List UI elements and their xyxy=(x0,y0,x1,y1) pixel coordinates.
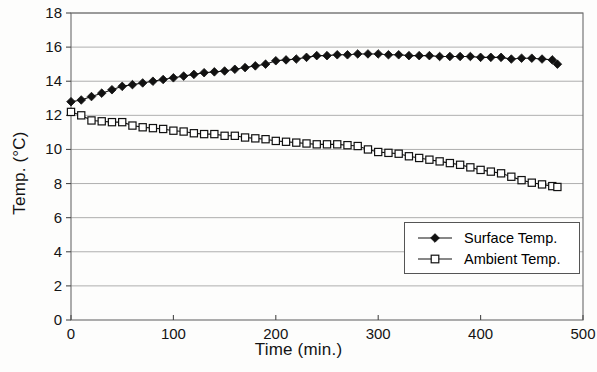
data-point xyxy=(554,183,561,190)
data-point xyxy=(160,125,167,132)
data-point xyxy=(446,52,455,61)
y-tick-label: 2 xyxy=(22,277,62,294)
series-line xyxy=(71,54,557,102)
data-point xyxy=(353,50,362,59)
data-point xyxy=(497,170,504,177)
data-point xyxy=(528,179,535,186)
data-point xyxy=(518,177,525,184)
data-point xyxy=(149,77,158,86)
data-point xyxy=(416,154,423,161)
series-1 xyxy=(67,50,562,106)
data-point xyxy=(538,181,545,188)
data-point xyxy=(241,63,250,72)
data-point xyxy=(466,52,475,61)
data-point xyxy=(282,138,289,145)
data-point xyxy=(477,166,484,173)
data-point xyxy=(476,53,485,62)
data-point xyxy=(200,68,209,77)
data-point xyxy=(211,130,218,137)
data-point xyxy=(67,108,74,115)
data-point xyxy=(88,117,95,124)
data-point xyxy=(159,75,168,84)
data-point xyxy=(426,156,433,163)
data-point xyxy=(507,55,516,64)
data-point xyxy=(221,132,228,139)
data-point xyxy=(497,53,506,62)
data-point xyxy=(333,50,342,59)
data-point xyxy=(78,112,85,119)
legend-label: Ambient Temp. xyxy=(464,251,560,267)
data-point xyxy=(170,127,177,134)
legend-box: Surface Temp.Ambient Temp. xyxy=(404,222,580,274)
y-tick-label: 18 xyxy=(22,4,62,21)
data-point xyxy=(190,130,197,137)
data-point xyxy=(139,124,146,131)
data-point xyxy=(528,54,537,63)
data-point xyxy=(364,146,371,153)
data-point xyxy=(385,149,392,156)
data-point xyxy=(487,168,494,175)
data-point xyxy=(67,97,76,106)
data-point xyxy=(272,56,281,65)
data-point xyxy=(405,153,412,160)
data-point xyxy=(374,50,383,59)
data-point xyxy=(97,89,106,98)
data-point xyxy=(313,141,320,148)
data-point xyxy=(169,74,178,83)
data-point xyxy=(179,72,188,81)
data-point xyxy=(293,139,300,146)
data-point xyxy=(538,55,547,64)
data-point xyxy=(118,82,127,91)
legend-label: Surface Temp. xyxy=(464,230,557,246)
data-point xyxy=(180,128,187,135)
data-point xyxy=(129,122,136,129)
chart-canvas xyxy=(0,0,597,372)
data-point xyxy=(108,119,115,126)
data-point xyxy=(210,68,219,77)
data-point xyxy=(487,53,496,62)
data-point xyxy=(128,80,137,89)
data-point xyxy=(384,50,393,59)
data-point xyxy=(87,92,96,101)
data-point xyxy=(220,67,229,76)
data-point xyxy=(364,50,373,59)
data-point xyxy=(323,141,330,148)
data-point xyxy=(261,60,270,69)
x-axis-title: Time (min.) xyxy=(0,340,597,360)
data-point xyxy=(394,50,403,59)
data-point xyxy=(436,158,443,165)
data-point xyxy=(344,142,351,149)
data-point xyxy=(138,79,147,88)
data-point xyxy=(241,134,248,141)
data-point xyxy=(467,164,474,171)
data-point xyxy=(446,159,453,166)
data-series-layer xyxy=(67,50,562,191)
data-point xyxy=(508,173,515,180)
y-tick-label: 14 xyxy=(22,72,62,89)
data-point xyxy=(98,118,105,125)
data-point xyxy=(303,140,310,147)
data-point xyxy=(272,137,279,144)
data-point xyxy=(425,51,434,60)
data-point xyxy=(201,130,208,137)
data-point xyxy=(343,50,352,59)
data-point xyxy=(354,142,361,149)
y-tick-label: 16 xyxy=(22,38,62,55)
y-axis-title: Temp. (°C) xyxy=(10,93,30,253)
legend-sample-marker xyxy=(431,255,439,263)
data-point xyxy=(149,125,156,132)
data-point xyxy=(435,52,444,61)
data-point xyxy=(190,70,199,79)
data-point xyxy=(517,54,526,63)
data-point xyxy=(312,51,321,60)
data-point xyxy=(375,148,382,155)
data-point xyxy=(251,62,260,71)
data-point xyxy=(108,85,117,94)
data-point xyxy=(231,65,240,74)
data-point xyxy=(302,53,311,62)
data-point xyxy=(77,96,86,105)
data-point xyxy=(334,141,341,148)
data-point xyxy=(231,132,238,139)
data-point xyxy=(292,55,301,64)
data-point xyxy=(252,135,259,142)
